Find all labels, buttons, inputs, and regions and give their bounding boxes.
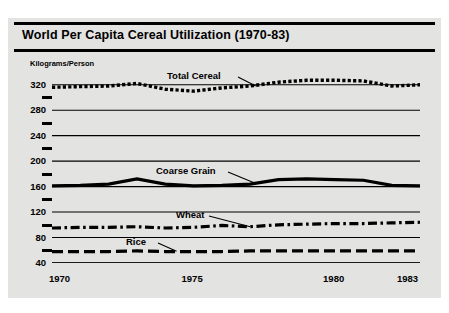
title-rule-bottom (14, 49, 435, 52)
y-axis-label: Kilograms/Person (30, 59, 94, 68)
y-axis-minor-tick (42, 249, 52, 252)
series-label-rice: Rice (126, 236, 146, 247)
series-line-total-cereal (52, 80, 420, 91)
x-axis-tick-label: 1980 (323, 273, 344, 284)
plot-area (52, 72, 420, 263)
y-axis-tick-label: 280 (20, 104, 46, 115)
x-axis-tick-label: 1983 (397, 273, 418, 284)
y-axis-minor-tick (42, 224, 52, 227)
annotation-leader-line (228, 172, 256, 183)
y-axis-tick-label: 40 (20, 257, 46, 268)
x-axis-tick-label: 1970 (49, 273, 70, 284)
y-axis-tick-label: 240 (20, 130, 46, 141)
y-axis-minor-tick (42, 147, 52, 150)
title-rule-top (14, 22, 435, 25)
y-axis-tick-label: 160 (20, 181, 46, 192)
x-axis-tick-label: 1975 (182, 273, 203, 284)
y-axis-minor-tick (42, 122, 52, 125)
chart-title: World Per Capita Cereal Utilization (197… (22, 28, 290, 42)
series-line-rice (52, 251, 420, 252)
y-axis-tick-label: 120 (20, 206, 46, 217)
series-label-coarse-grain: Coarse Grain (156, 165, 216, 176)
y-axis-tick-label: 320 (20, 79, 46, 90)
series-line-coarse-grain (52, 179, 420, 186)
series-label-total-cereal: Total Cereal (167, 70, 221, 81)
series-label-wheat: Wheat (176, 209, 205, 220)
y-axis-minor-tick (42, 198, 52, 201)
y-axis-tick-label: 200 (20, 155, 46, 166)
y-axis-minor-tick (42, 96, 52, 99)
y-axis-tick-label: 80 (20, 232, 46, 243)
y-axis-minor-tick (42, 173, 52, 176)
plot-svg (52, 72, 420, 263)
chart-figure: World Per Capita Cereal Utilization (197… (0, 0, 449, 313)
